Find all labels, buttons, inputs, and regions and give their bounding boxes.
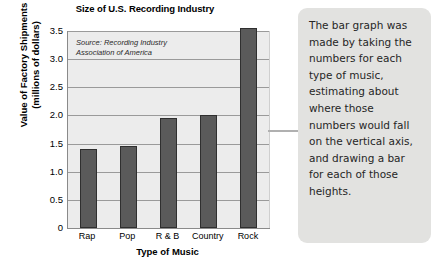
y-axis-tick-label: 3.5 [34, 25, 63, 36]
x-axis-tick-label: Rock [218, 231, 278, 241]
y-axis-title-line1: Value of Factory Shipments [18, 3, 29, 128]
y-axis-tick-label: 2.0 [34, 109, 63, 120]
y-axis-title: Value of Factory Shipments (millions of … [18, 0, 48, 154]
plot-area: Source: Recording Industry Association o… [67, 31, 270, 228]
x-axis-title: Type of Music [67, 246, 268, 257]
callout-text: The bar graph was made by taking the num… [309, 17, 421, 200]
callout-connector-line [268, 130, 302, 132]
gridline [68, 87, 269, 88]
x-axis-line [67, 228, 270, 229]
y-axis-tick-label: 0.5 [34, 194, 63, 205]
y-axis-tick-label: 2.5 [34, 81, 63, 92]
bar [80, 149, 97, 228]
gridline [68, 115, 269, 116]
bar [160, 118, 177, 228]
y-axis-tick-label: 3.0 [34, 53, 63, 64]
y-axis-tick-label: 1.5 [34, 138, 63, 149]
bar-chart-figure: Size of U.S. Recording Industry Value of… [0, 0, 290, 267]
source-note-line1: Source: Recording Industry [76, 38, 167, 47]
bar [120, 146, 137, 228]
gridline [68, 31, 269, 32]
callout-box: The bar graph was made by taking the num… [298, 8, 431, 243]
y-axis-title-line2: (millions of dollars) [30, 0, 42, 154]
gridline [68, 59, 269, 60]
y-axis-tick-label: 1.0 [34, 166, 63, 177]
source-note-line2: Association of America [76, 48, 152, 57]
bar [240, 28, 257, 228]
source-note: Source: Recording Industry Association o… [76, 38, 167, 57]
bar [200, 115, 217, 228]
